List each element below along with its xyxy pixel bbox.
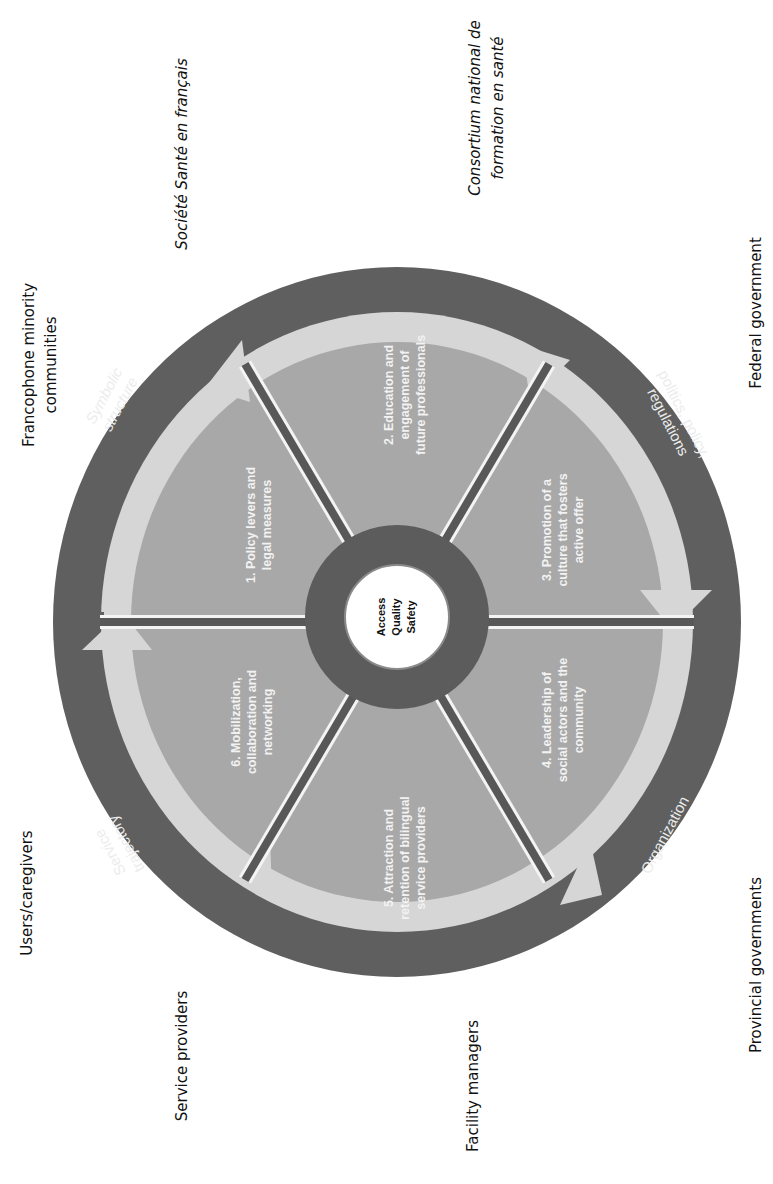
svg-text:social actors and the: social actors and the: [556, 658, 570, 782]
svg-text:Francophone minority: Francophone minority: [20, 283, 38, 447]
stakeholder-societe-sante: Société Santé en français: [173, 58, 191, 250]
wheel-diagram: Access Quality Safety 1. Policy levers a…: [0, 0, 773, 1184]
svg-text:Consortium national de: Consortium national de: [466, 20, 484, 196]
stakeholder-facility-managers: Facility managers: [464, 1020, 482, 1152]
stakeholder-service-providers: Service providers: [173, 991, 191, 1122]
svg-text:6. Mobilization,: 6. Mobilization,: [229, 677, 243, 767]
svg-text:4. Leadership of: 4. Leadership of: [540, 671, 554, 768]
segment-5-attraction: 5. Attraction and retention of bilingual…: [382, 796, 428, 920]
svg-text:5. Attraction and: 5. Attraction and: [382, 809, 396, 907]
svg-text:collaboration and: collaboration and: [245, 670, 259, 774]
segment-2-education: 2. Education and engagement of future pr…: [382, 335, 428, 455]
svg-text:1. Policy levers and: 1. Policy levers and: [244, 467, 258, 583]
svg-text:Facility managers: Facility managers: [464, 1020, 482, 1152]
center-label-quality: Quality: [390, 597, 402, 635]
svg-text:2. Education and: 2. Education and: [382, 345, 396, 445]
stakeholder-users-caregivers: Users/caregivers: [18, 830, 36, 956]
svg-text:community: community: [572, 687, 586, 754]
stakeholder-federal-government: Federal government: [747, 237, 765, 389]
stakeholder-provincial-governments: Provincial governments: [747, 877, 765, 1053]
svg-text:communities: communities: [42, 316, 60, 413]
svg-text:future professionals: future professionals: [414, 335, 428, 455]
stakeholder-consortium: Consortium national de formation en sant…: [466, 20, 507, 196]
svg-text:formation en santé: formation en santé: [489, 36, 507, 179]
svg-text:Provincial governments: Provincial governments: [747, 877, 765, 1053]
svg-text:active offer: active offer: [572, 497, 586, 564]
svg-text:service providers: service providers: [414, 806, 428, 910]
svg-text:Service providers: Service providers: [173, 991, 191, 1122]
svg-text:3. Promotion of a: 3. Promotion of a: [540, 478, 554, 581]
svg-text:engagement of: engagement of: [398, 350, 412, 440]
svg-text:legal measures: legal measures: [260, 480, 274, 570]
svg-text:Federal government: Federal government: [747, 237, 765, 389]
center-label-safety: Safety: [405, 600, 417, 634]
svg-text:networking: networking: [261, 689, 275, 756]
center-label-access: Access: [375, 598, 387, 637]
svg-text:Users/caregivers: Users/caregivers: [18, 830, 36, 956]
svg-text:retention of bilingual: retention of bilingual: [398, 796, 412, 920]
stakeholder-francophone-communities: Francophone minority communities: [20, 283, 60, 447]
svg-text:Société Santé en français: Société Santé en français: [173, 58, 191, 250]
svg-text:culture that fosters: culture that fosters: [556, 473, 570, 586]
